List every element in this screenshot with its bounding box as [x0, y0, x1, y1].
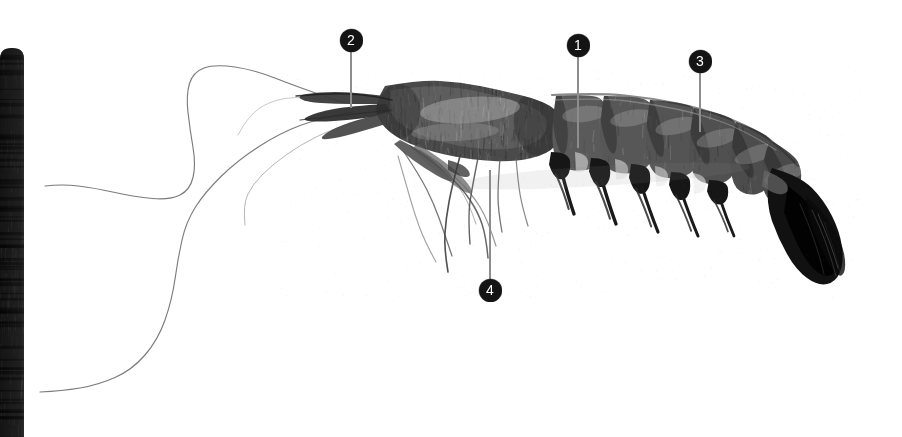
callout-3-badge[interactable]: 3	[689, 50, 712, 73]
callout-4-leader-line	[489, 170, 491, 279]
callout-1-badge[interactable]: 1	[567, 34, 590, 57]
callout-1-leader-line	[577, 57, 579, 148]
callout-3-leader-line	[699, 73, 701, 132]
callout-2-leader-line	[350, 52, 352, 108]
shrimp-specimen-image	[0, 0, 902, 437]
specimen-figure: 2134	[0, 0, 902, 437]
callout-2-badge[interactable]: 2	[340, 29, 363, 52]
callout-4-badge[interactable]: 4	[479, 279, 502, 302]
